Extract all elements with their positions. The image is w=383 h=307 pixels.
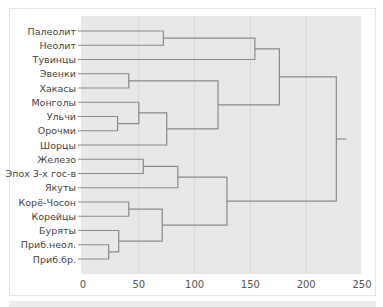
x-tick-label: 50 — [132, 279, 145, 290]
leaf-label: Неолит — [39, 40, 76, 51]
leaf-label: Корё-Чосон — [19, 197, 76, 208]
x-tick-label: 0 — [80, 279, 86, 290]
dendrogram-chart: 050100150200250ПалеолитНеолитТувинцыЭвен… — [0, 0, 383, 307]
leaf-label: Приб.неол. — [21, 239, 76, 250]
leaf-label: Тувинцы — [32, 54, 76, 65]
leaf-label: Приб.бр. — [33, 254, 76, 265]
leaf-label: Хакасы — [39, 83, 76, 94]
leaf-label: Якуты — [45, 182, 76, 193]
leaf-label: Эвенки — [40, 68, 76, 79]
leaf-label: Железо — [37, 154, 76, 165]
leaf-label: Ульчи — [47, 111, 76, 122]
leaf-label: Буряты — [39, 225, 76, 236]
x-tick-label: 200 — [297, 279, 316, 290]
x-tick-label: 250 — [352, 279, 371, 290]
x-tick-label: 150 — [241, 279, 260, 290]
leaf-label: Эпох 3-х гос-в — [6, 168, 77, 179]
leaf-label: Корейцы — [31, 211, 76, 222]
leaf-label: Монголы — [31, 97, 76, 108]
leaf-label: Шорцы — [40, 140, 76, 151]
x-tick-label: 100 — [185, 279, 204, 290]
leaf-label: Орочми — [38, 125, 76, 136]
leaf-label: Палеолит — [28, 26, 77, 37]
